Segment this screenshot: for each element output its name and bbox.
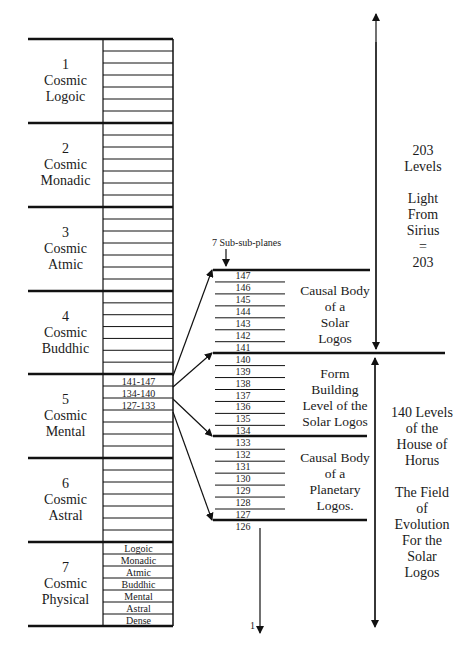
level-number: 141 bbox=[228, 342, 258, 353]
level-number: 140 bbox=[228, 354, 258, 365]
level-number: 145 bbox=[228, 294, 258, 305]
level-number: 137 bbox=[228, 390, 258, 401]
level-number: 130 bbox=[228, 473, 258, 484]
subsub-planes-label: 7 Sub-sub-planes bbox=[212, 237, 281, 249]
plane-label-1: 1CosmicLogoic bbox=[28, 57, 103, 105]
light-from-sirius-text: 203LevelsLightFromSirius=203 bbox=[385, 143, 461, 271]
causal-body-planetary-logos-text: Causal Bodyof aPlanetaryLogos. bbox=[285, 450, 385, 514]
level-number: 127 bbox=[228, 509, 258, 520]
house-of-horus-text: 140 Levelsof theHouse ofHorusThe Fieldof… bbox=[378, 405, 466, 581]
mental-subplane-3: 127-133 bbox=[104, 400, 173, 412]
level-number: 138 bbox=[228, 378, 258, 389]
level-number: 135 bbox=[228, 413, 258, 424]
level-number: 128 bbox=[228, 497, 258, 508]
bottom-level-number: 1 bbox=[250, 620, 255, 632]
level-number: 147 bbox=[228, 270, 258, 281]
level-number: 143 bbox=[228, 318, 258, 329]
plane-label-2: 2CosmicMonadic bbox=[28, 141, 103, 189]
level-number: 142 bbox=[228, 330, 258, 341]
plane-label-4: 4CosmicBuddhic bbox=[28, 309, 103, 357]
physical-subplane-mental: Mental bbox=[104, 591, 173, 603]
physical-subplane-atmic: Atmic bbox=[104, 567, 173, 579]
mental-subplane-1: 141-147 bbox=[104, 376, 173, 388]
physical-subplane-logoic: Logoic bbox=[104, 543, 173, 555]
plane-label-5: 5CosmicMental bbox=[28, 392, 103, 440]
plane-label-6: 6CosmicAstral bbox=[28, 476, 103, 524]
plane-label-3: 3CosmicAtmic bbox=[28, 225, 103, 273]
level-number: 126 bbox=[228, 521, 258, 532]
level-number: 134 bbox=[228, 425, 258, 436]
level-number: 146 bbox=[228, 282, 258, 293]
physical-subplane-monadic: Monadic bbox=[104, 555, 173, 567]
level-number: 131 bbox=[228, 461, 258, 472]
form-building-level-text: FormBuildingLevel of theSolar Logos bbox=[280, 366, 390, 430]
level-number: 144 bbox=[228, 306, 258, 317]
causal-body-solar-logos-text: Causal Bodyof aSolarLogos bbox=[285, 283, 385, 347]
level-number: 129 bbox=[228, 485, 258, 496]
physical-subplane-dense: Dense bbox=[104, 615, 173, 627]
level-number: 133 bbox=[228, 437, 258, 448]
cosmic-planes-diagram: 1CosmicLogoic 2CosmicMonadic 3CosmicAtmi… bbox=[0, 0, 469, 668]
level-number: 139 bbox=[228, 366, 258, 377]
mental-subplane-2: 134-140 bbox=[104, 388, 173, 400]
physical-subplane-buddhic: Buddhic bbox=[104, 579, 173, 591]
level-number: 132 bbox=[228, 449, 258, 460]
level-number: 136 bbox=[228, 401, 258, 412]
plane-label-7: 7CosmicPhysical bbox=[28, 560, 103, 608]
physical-subplane-astral: Astral bbox=[104, 603, 173, 615]
